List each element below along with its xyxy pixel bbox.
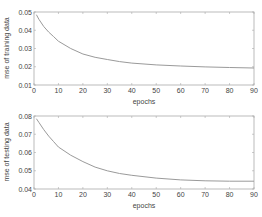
x-tick-label: 50 (152, 191, 160, 198)
x-tick-label: 70 (201, 87, 209, 94)
x-tick-label: 60 (177, 87, 185, 94)
x-tick-label: 20 (79, 87, 87, 94)
y-tick-label: 0.05 (18, 167, 32, 174)
y-tick-label: 0.05 (18, 9, 32, 16)
x-tick-label: 10 (55, 87, 63, 94)
y-tick-label: 0.01 (18, 82, 32, 89)
x-tick-label: 40 (128, 87, 136, 94)
y-tick-label: 0.06 (18, 149, 32, 156)
x-tick-label: 20 (79, 191, 87, 198)
x-tick-label: 90 (250, 87, 258, 94)
y-tick-label: 0.07 (18, 131, 32, 138)
x-axis-label-testing: epochs (133, 202, 156, 210)
x-tick-label: 0 (32, 191, 36, 198)
x-tick-label: 50 (152, 87, 160, 94)
y-tick-label: 0.04 (18, 27, 32, 34)
x-tick-label: 40 (128, 191, 136, 198)
plot-area-training (34, 12, 254, 85)
x-tick-label: 30 (103, 191, 111, 198)
x-tick-label: 10 (55, 191, 63, 198)
y-axis-label-testing: mse of testing data (3, 122, 11, 181)
x-axis-label-training: epochs (133, 98, 156, 106)
y-axis-label-training: mse of training data (3, 17, 11, 79)
x-tick-label: 0 (32, 87, 36, 94)
plot-training: 0102030405060708090 0.010.020.030.040.05… (3, 9, 258, 107)
x-tick-label: 60 (177, 191, 185, 198)
x-tick-label: 80 (226, 191, 234, 198)
figure: 0102030405060708090 0.010.020.030.040.05… (0, 0, 262, 217)
y-tick-label: 0.02 (18, 63, 32, 70)
y-tick-label: 0.04 (18, 186, 32, 193)
plot-testing: 0102030405060708090 0.040.050.060.070.08… (3, 113, 258, 211)
y-tick-label: 0.03 (18, 45, 32, 52)
x-tick-label: 90 (250, 191, 258, 198)
x-tick-label: 30 (103, 87, 111, 94)
x-tick-label: 70 (201, 191, 209, 198)
y-tick-label: 0.08 (18, 113, 32, 120)
x-tick-label: 80 (226, 87, 234, 94)
